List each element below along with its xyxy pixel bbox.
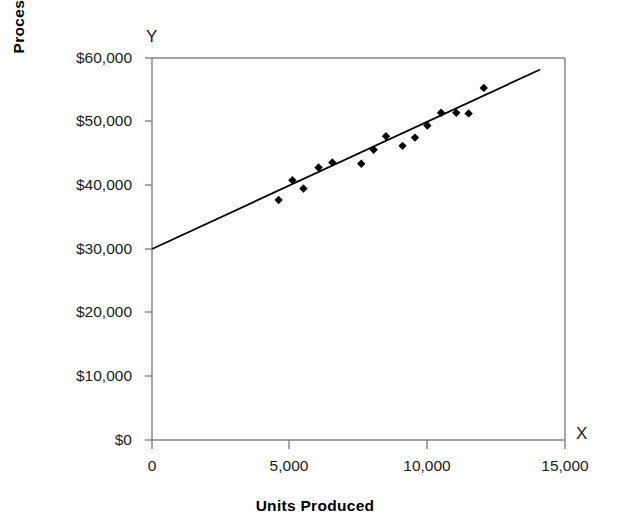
scatter-point-marker: [369, 145, 377, 153]
scatter-point-marker: [480, 84, 488, 92]
y-tick-label-20000: $20,000: [10, 304, 132, 320]
plot-area: [0, 0, 630, 532]
x-tick-label-0: 0: [112, 458, 192, 474]
scatter-point-marker: [398, 142, 406, 150]
y-axis-ticks: [145, 58, 152, 440]
y-tick-label-60000: $60,000: [10, 50, 132, 66]
x-tick-label-15000: 15,000: [521, 458, 609, 474]
y-tick-label-10000: $10,000: [10, 368, 132, 384]
y-tick-label-30000: $30,000: [10, 241, 132, 257]
scatter-point-marker: [464, 109, 472, 117]
x-axis-title: Units Produced: [0, 497, 630, 515]
regression-line: [152, 69, 540, 249]
scatter-point-marker: [328, 158, 336, 166]
y-axis-title: Processing Cost: [10, 0, 28, 110]
scatter-point-marker: [274, 196, 282, 204]
y-tick-label-0: $0: [10, 432, 132, 448]
scatter-point-marker: [357, 159, 365, 167]
trend-line: [152, 69, 540, 249]
scatter-chart-figure: $0 $10,000 $20,000 $30,000 $40,000 $50,0…: [0, 0, 630, 532]
x-tick-label-5000: 5,000: [249, 458, 329, 474]
x-tick-label-10000: 10,000: [383, 458, 471, 474]
scatter-point-marker: [299, 184, 307, 192]
plot-frame: [152, 58, 565, 440]
y-tick-label-40000: $40,000: [10, 177, 132, 193]
x-axis-ticks: [152, 440, 565, 449]
y-axis-letter: Y: [146, 28, 157, 46]
x-axis-letter: X: [576, 425, 587, 443]
y-tick-label-50000: $50,000: [10, 113, 132, 129]
scatter-point-marker: [411, 133, 419, 141]
